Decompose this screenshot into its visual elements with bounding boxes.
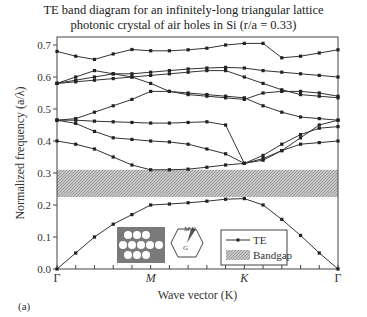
band-marker (93, 235, 96, 238)
legend-gap-label: Bandgap (253, 249, 293, 261)
band-marker (299, 234, 302, 237)
air-hole (133, 251, 141, 259)
band-marker (280, 71, 283, 74)
x-tick-label: Γ (54, 271, 61, 285)
legend-gap-swatch (226, 250, 250, 260)
band-marker (224, 198, 227, 201)
band-marker (168, 72, 171, 75)
band-marker (243, 98, 246, 101)
air-hole (146, 241, 154, 249)
air-hole (137, 241, 145, 249)
band-marker (318, 141, 321, 144)
band-marker (261, 203, 264, 206)
legend-te-label: TE (253, 234, 267, 246)
band-line-band2 (57, 141, 338, 170)
band-marker (243, 197, 246, 200)
band-marker (224, 96, 227, 99)
band-marker (149, 49, 152, 52)
bandgap-region (57, 170, 338, 197)
band-marker (318, 74, 321, 77)
band-marker (168, 121, 171, 124)
band-marker (187, 67, 190, 70)
band-marker (336, 139, 339, 142)
band-marker (318, 117, 321, 120)
band-marker (299, 93, 302, 96)
band-marker (93, 120, 96, 123)
band-marker (168, 202, 171, 205)
band-marker (280, 218, 283, 221)
band-marker (112, 120, 115, 123)
brillouin-zone-inset: MKG (171, 225, 203, 257)
band-marker (74, 75, 77, 78)
band-marker (149, 203, 152, 206)
band-marker (112, 136, 115, 139)
band-line-band9 (57, 43, 338, 59)
band-marker (205, 95, 208, 98)
band-marker (93, 58, 96, 61)
band-marker (280, 56, 283, 59)
band-marker (336, 119, 339, 122)
band-marker (168, 49, 171, 52)
band-marker (130, 213, 133, 216)
x-tick-label: Γ (335, 271, 342, 285)
band-marker (130, 75, 133, 78)
band-marker (187, 121, 190, 124)
band-marker (168, 140, 171, 143)
band-marker (280, 90, 283, 93)
band-marker (243, 66, 246, 69)
bz-label-m: M (183, 225, 191, 233)
band-marker (187, 143, 190, 146)
x-axis-label: Wave vector (K) (158, 288, 238, 302)
band-line-band8 (57, 67, 338, 83)
band-marker (112, 223, 115, 226)
band-marker (149, 82, 152, 85)
band-marker (205, 47, 208, 50)
band-marker (74, 122, 77, 125)
band-marker (280, 149, 283, 152)
band-line-band3 (57, 120, 338, 163)
air-hole (155, 241, 163, 249)
band-marker (187, 71, 190, 74)
band-marker (318, 127, 321, 130)
band-marker (299, 72, 302, 75)
band-marker (224, 69, 227, 72)
band-marker (112, 52, 115, 55)
y-tick-label: 0.2 (37, 199, 51, 211)
air-hole (124, 251, 132, 259)
band-marker (112, 104, 115, 107)
band-marker (74, 55, 77, 58)
legend: TEBandgap (221, 230, 293, 265)
band-marker (318, 251, 321, 254)
band-marker (261, 159, 264, 162)
band-marker (55, 139, 58, 142)
band-marker (130, 121, 133, 124)
band-marker (243, 162, 246, 165)
band-marker (280, 143, 283, 146)
band-marker (168, 90, 171, 93)
band-marker (93, 147, 96, 150)
band-marker (130, 98, 133, 101)
y-tick-label: 0.6 (37, 71, 51, 83)
band-marker (93, 130, 96, 133)
y-axis-label: Normalized frequency (a/λ) (13, 86, 27, 219)
band-marker (318, 51, 321, 54)
air-hole (142, 231, 150, 239)
panel-label: (a) (18, 300, 31, 313)
air-hole (119, 241, 127, 249)
band-marker (187, 48, 190, 51)
y-tick-label: 0.0 (37, 263, 51, 275)
band-marker (74, 117, 77, 120)
air-hole (142, 251, 150, 259)
band-marker (130, 48, 133, 51)
band-marker (224, 66, 227, 69)
band-marker (149, 71, 152, 74)
band-marker (93, 111, 96, 114)
x-tick-label: M (145, 271, 157, 285)
plot-area: 0.00.10.20.30.40.50.60.7ΓMKΓWave vector … (0, 0, 367, 317)
band-marker (205, 120, 208, 123)
band-marker (93, 69, 96, 72)
band-marker (318, 91, 321, 94)
air-hole (124, 231, 132, 239)
band-marker (149, 168, 152, 171)
x-tick-label: K (239, 271, 249, 285)
